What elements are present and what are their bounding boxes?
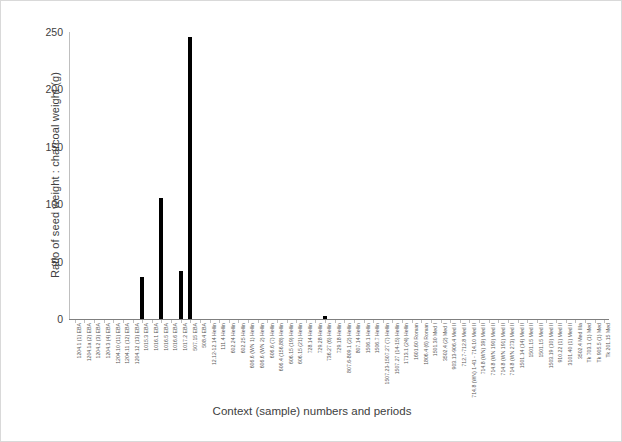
x-tick-label: 508.4 EBA (202, 323, 208, 348)
x-tick-label: 728.14 Hellin (308, 323, 314, 353)
x-tick-label: 714.8 (WN 190) Med II (491, 323, 497, 375)
x-tick-label: 3101.40 (1) Med II (568, 323, 574, 365)
x-tick-label: 729.28 Hellin (318, 323, 324, 353)
x-tick-label: Tk 703.1 (1) Med (587, 323, 593, 363)
chart-figure: Ratio of seed weight : charcoal weight (… (0, 0, 622, 442)
x-tick-label: 807.6-809.1 (2) Hellin (347, 323, 353, 373)
x-tick-label: 1501.14 (14) Med II (520, 323, 526, 368)
x-tick-label: 1204.3 (4) EBA (106, 323, 112, 358)
x-tick-label: 1506.1 Hellin (366, 323, 372, 353)
y-tick-label: 100 (45, 198, 63, 210)
x-tick-label: 606.6 (7) Hellin (270, 323, 276, 358)
bar (179, 271, 183, 319)
x-tick-label: Tk 201.15 Med (606, 323, 612, 358)
x-tick-label: 606.15 (19) Hellin (289, 323, 295, 364)
x-tick-label: 1016.5 EBA (164, 323, 170, 351)
x-tick-label: 606.6 (WN 2) Hellin (260, 323, 266, 368)
x-tick-label: Tk 905.5 (1) Med (597, 323, 603, 363)
x-tick-label: 1501.15 Med II (529, 323, 535, 358)
x-tick-label: 507.15 EBA (193, 323, 199, 351)
x-tick-label: 729.18 Hellin (337, 323, 343, 353)
x-tick-label: 1015.3 EBA (144, 323, 150, 351)
x-tick-label: 1503.19 (10) Med II (549, 323, 555, 368)
x-tick-label: 712.7-712.8 Med II (462, 323, 468, 367)
x-tick-label: 606.4 (156,88) Hellin (279, 323, 285, 371)
x-axis-title: Context (sample) numbers and periods (1, 405, 622, 417)
y-tick-label: 150 (45, 141, 63, 153)
x-tick-label: 807.14 Hellin (356, 323, 362, 353)
bar (188, 37, 192, 319)
x-tick-label: 1204.2 (3) EBA (96, 323, 102, 358)
x-tick-label: 602.25 Hellin (241, 323, 247, 353)
x-tick-label: 1713.1 (24) Hellin (404, 323, 410, 364)
y-tick-label: 250 (45, 26, 63, 38)
x-tick-label: 714.8 (WN 273) Med II (510, 323, 516, 375)
y-tick-label: 0 (57, 313, 63, 325)
x-tick-label: 714.8 (WN 191) Med II (501, 323, 507, 375)
x-tick-label: 12.12-12.14 Hellin (212, 323, 218, 365)
y-axis-tick-labels: 050100150200250 (37, 32, 67, 319)
x-tick-label: 1507.23-1507.27 (7) Hellin (385, 323, 391, 384)
bar (159, 198, 163, 319)
x-tick-label: 1016.6 EBA (173, 323, 179, 351)
x-tick-label: 1501.15 Med II (539, 323, 545, 358)
x-tick-label: 1204.10 (11) EBA (116, 323, 122, 364)
x-tick-label: 1506.7 Hellin (375, 323, 381, 353)
x-tick-label: 714.8 (WN) 39) Med II (481, 323, 487, 374)
x-tick-label: 1204.1a (2) EBA (87, 323, 93, 361)
x-tick-label: 910.22 (1) Med II (558, 323, 564, 363)
x-tick-label: 1204.12 (13) EBA (135, 323, 141, 364)
x-tick-label: 736.27 (6) Hellin (327, 323, 333, 361)
bar (140, 277, 144, 319)
y-tick-label: 50 (51, 256, 63, 268)
x-tick-label: 1507.27 (14-15) Hellin (395, 323, 401, 374)
x-tick-label: 1204.1 (1) EBA (77, 323, 83, 358)
x-tick-label: 1016.1 EBA (154, 323, 160, 351)
plot-area (70, 32, 609, 319)
x-tick-label: 1806.4 (6) Roman (424, 323, 430, 365)
y-tick-label: 200 (45, 83, 63, 95)
x-tick-label: 1501.30 Med I (433, 323, 439, 356)
x-tick-label: 606.6 (WN 1) Hellin (250, 323, 256, 368)
x-tick-label: 606.15 (21) Hellin (298, 323, 304, 364)
x-tick-label: 602.24 Hellin (231, 323, 237, 353)
x-tick-label: 1204.11 (12) EBA (125, 323, 131, 364)
x-tick-label: 111.4 Hellin (221, 323, 227, 350)
x-axis-tick-labels: 1204.1 (1) EBA1204.1a (2) EBA1204.2 (3) … (70, 323, 609, 395)
x-tick-label: 903.13-906.4 Med II (452, 323, 458, 369)
x-tick-label: 3502.4 Med IIIa (578, 323, 584, 359)
x-tick-label: 714.8 (WN) 1-41 - 714.10 Med II (472, 323, 478, 398)
x-tick-label: 1017.2 EBA (183, 323, 189, 351)
x-tick-label: 1601.60 Roman (414, 323, 420, 360)
x-tick-label: 3502.4 (2) Med I (443, 323, 449, 361)
